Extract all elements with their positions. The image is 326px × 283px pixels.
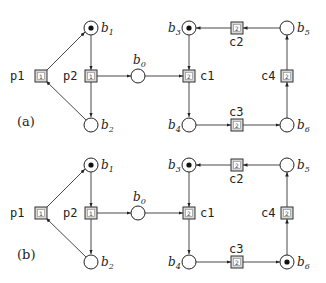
token-icon <box>88 25 93 30</box>
token-icon <box>186 162 191 167</box>
place-b6: b6 <box>280 255 310 271</box>
place-b4: b4 <box>168 118 196 134</box>
svg-text:b5: b5 <box>297 21 310 37</box>
svg-text:b4: b4 <box>168 118 181 134</box>
place-b1: b1 <box>84 21 114 37</box>
svg-text:b0: b0 <box>133 190 146 206</box>
svg-text:c3: c3 <box>229 242 243 256</box>
token-icon <box>186 25 191 30</box>
svg-text:2: 2 <box>187 73 191 80</box>
svg-text:b2: b2 <box>101 118 114 134</box>
transition-c2: 2 c2 <box>229 159 243 186</box>
svg-text:2: 2 <box>235 259 239 266</box>
place-b2: b2 <box>84 255 114 271</box>
svg-text:2: 2 <box>285 73 289 80</box>
transition-c4: 2 c4 <box>261 206 293 220</box>
svg-text:p2: p2 <box>63 206 77 220</box>
place-b5: b5 <box>280 21 310 37</box>
panel-label-a: (a) <box>17 114 35 129</box>
svg-text:c4: c4 <box>261 206 275 220</box>
svg-text:c2: c2 <box>229 35 243 49</box>
transition-p2: 1 p2 <box>63 206 97 220</box>
transition-p1: 1 p1 <box>10 69 47 83</box>
svg-text:b3: b3 <box>168 21 181 37</box>
token-icon <box>88 162 93 167</box>
panel-a: b1 b2 b0 b3 b4 b5 b6 <box>10 21 310 134</box>
svg-text:b2: b2 <box>101 255 114 271</box>
place-b0: b0 <box>131 53 146 83</box>
svg-text:p1: p1 <box>10 206 24 220</box>
transition-c4: 2 c4 <box>261 69 293 83</box>
arc-p1-b1 <box>46 32 85 71</box>
svg-text:2: 2 <box>235 25 239 32</box>
arc-b2-p1 <box>46 218 86 257</box>
svg-text:b6: b6 <box>297 255 310 271</box>
transition-c1: 2 c1 <box>183 206 214 220</box>
place-b4: b4 <box>168 255 196 271</box>
svg-text:b4: b4 <box>168 255 181 271</box>
svg-text:b0: b0 <box>133 53 146 69</box>
place-b3: b3 <box>168 158 196 174</box>
svg-text:b5: b5 <box>297 158 310 174</box>
svg-text:c1: c1 <box>200 69 214 83</box>
svg-text:2: 2 <box>187 210 191 217</box>
place-b3: b3 <box>168 21 196 37</box>
petri-net-diagram: b1 b2 b0 b3 b4 b5 b6 <box>0 0 326 283</box>
svg-text:c2: c2 <box>229 172 243 186</box>
svg-text:1: 1 <box>89 73 93 80</box>
place-b1: b1 <box>84 158 114 174</box>
transition-c1: 2 c1 <box>183 69 214 83</box>
svg-text:2: 2 <box>235 162 239 169</box>
svg-text:b6: b6 <box>297 118 310 134</box>
token-icon <box>284 259 289 264</box>
svg-text:b1: b1 <box>101 21 114 37</box>
svg-text:2: 2 <box>235 122 239 129</box>
svg-text:p1: p1 <box>10 69 24 83</box>
place-b0: b0 <box>131 190 146 220</box>
transition-p2: 1 p2 <box>63 69 97 83</box>
svg-text:c1: c1 <box>200 206 214 220</box>
place-b6: b6 <box>280 118 310 134</box>
transition-c3: 2 c3 <box>229 242 243 268</box>
arc-b2-p1 <box>46 81 86 120</box>
arc-p1-b1 <box>46 169 85 208</box>
place-b5: b5 <box>280 158 310 174</box>
svg-text:b1: b1 <box>101 158 114 174</box>
svg-text:1: 1 <box>39 210 43 217</box>
transition-c3: 2 c3 <box>229 105 243 131</box>
transition-p1: 1 p1 <box>10 206 47 220</box>
panel-b: b1 b2 b0 b3 b4 b5 b6 <box>10 158 310 271</box>
svg-text:1: 1 <box>39 73 43 80</box>
panel-label-b: (b) <box>17 247 35 262</box>
transition-c2: 2 c2 <box>229 22 243 49</box>
svg-text:2: 2 <box>285 210 289 217</box>
svg-text:1: 1 <box>89 210 93 217</box>
place-b2: b2 <box>84 118 114 134</box>
svg-text:c4: c4 <box>261 69 275 83</box>
svg-text:b3: b3 <box>168 158 181 174</box>
svg-text:p2: p2 <box>63 69 77 83</box>
svg-text:c3: c3 <box>229 105 243 119</box>
